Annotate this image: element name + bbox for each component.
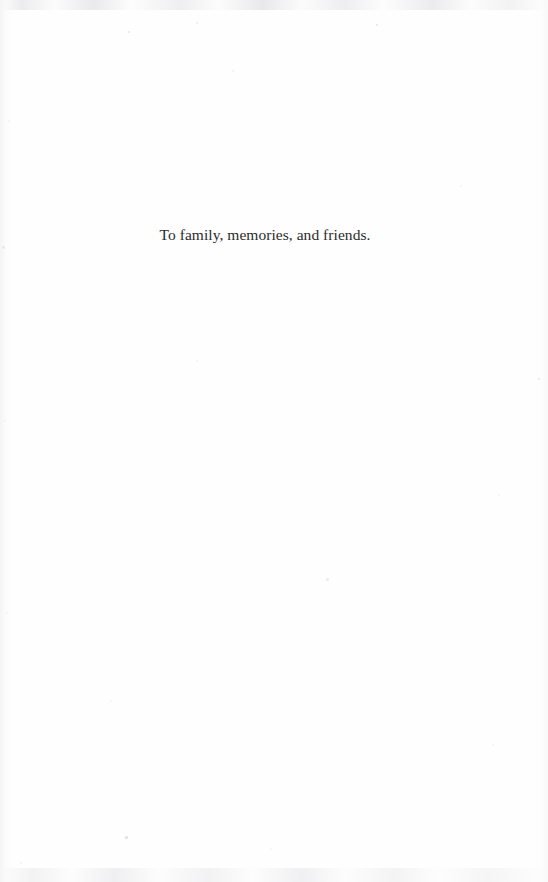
scan-artifact-top-band <box>0 0 548 10</box>
scan-speckle <box>460 185 462 187</box>
scan-speckle <box>196 22 198 24</box>
scan-artifact-right-edge <box>534 0 548 882</box>
scan-speckle <box>4 420 6 422</box>
scan-speckle <box>2 246 5 249</box>
scan-speckle <box>196 360 198 362</box>
scan-speckle <box>232 70 234 72</box>
scan-artifact-left-edge <box>0 0 14 882</box>
scan-speckle <box>125 836 128 839</box>
scan-artifact-bottom-band <box>0 868 548 882</box>
scan-speckle <box>538 378 540 380</box>
scan-speckle <box>8 120 10 122</box>
scan-speckle <box>270 848 272 850</box>
scan-speckle <box>20 862 22 864</box>
scan-speckle <box>326 578 329 581</box>
scan-speckle <box>492 744 494 746</box>
scan-speckle <box>110 700 112 702</box>
dedication-text: To family, memories, and friends. <box>0 225 548 245</box>
scan-speckle <box>498 494 500 496</box>
scan-speckle <box>128 31 130 33</box>
document-page: To family, memories, and friends. <box>0 0 548 882</box>
scan-speckle <box>6 612 8 614</box>
scan-speckle <box>376 24 378 26</box>
